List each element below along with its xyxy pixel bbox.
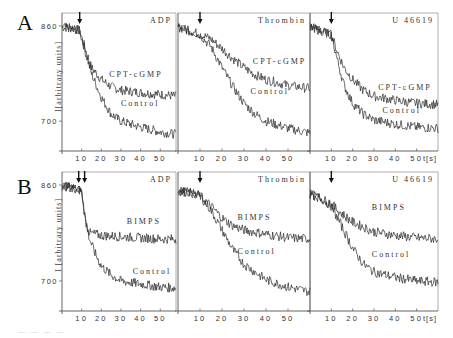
x-tick-label: 30 <box>115 154 128 163</box>
x-tick-label: 40 <box>389 154 402 163</box>
row-label-a: A <box>17 10 33 36</box>
series-label: Control <box>383 106 421 115</box>
x-tick-label: 20 <box>216 314 229 323</box>
panel-title: Thrombin <box>258 16 306 25</box>
x-tick-label: 40 <box>260 314 273 323</box>
trace-bimps <box>310 192 438 243</box>
y-tick-label: 860 <box>41 22 58 31</box>
x-tick-label: 50 <box>154 314 167 323</box>
series-label: BIMPS <box>372 203 406 212</box>
arrow-down-icon <box>82 178 87 183</box>
x-tick-label: 10 <box>194 154 207 163</box>
trace-control <box>178 25 310 136</box>
row-label-b: B <box>17 174 32 200</box>
x-tick-label: 40 <box>260 154 273 163</box>
series-label: Control <box>133 267 171 276</box>
x-unit-label: t[s] <box>423 154 437 163</box>
x-tick-label: 10 <box>75 314 88 323</box>
arrow-down-icon <box>77 19 82 24</box>
x-tick-label: 40 <box>134 314 147 323</box>
x-tick-label: 50 <box>410 314 423 323</box>
series-label: Control <box>121 99 159 108</box>
x-tick-label: 10 <box>75 154 88 163</box>
series-label: CPT-cGMP <box>109 70 163 79</box>
x-tick-label: 20 <box>216 154 229 163</box>
panel-title: Thrombin <box>258 175 306 184</box>
series-label: Control <box>372 250 410 259</box>
y-tick-label: 700 <box>41 277 58 286</box>
x-tick-label: 30 <box>368 154 381 163</box>
series-label: Control <box>237 247 275 256</box>
panel-title: ADP <box>150 175 172 184</box>
x-tick-label: 20 <box>95 154 108 163</box>
x-tick-label: 30 <box>368 314 381 323</box>
trace-cpt-cgmp <box>62 24 176 99</box>
x-tick-label: 10 <box>325 154 338 163</box>
panel-b-thrombin: 1020304050ThrombinBIMPSControl <box>175 171 310 323</box>
y-axis-label-a: I[arbitrary units] <box>54 41 63 112</box>
x-tick-label: 50 <box>154 154 167 163</box>
x-tick-label: 30 <box>238 154 251 163</box>
figure-caption: — — — — <box>18 328 65 336</box>
arrow-down-icon <box>329 178 334 183</box>
series-label: BIMPS <box>237 213 271 222</box>
y-tick-label: 700 <box>41 117 58 126</box>
panel-title: U 46619 <box>392 175 434 184</box>
trace-control <box>178 187 310 296</box>
series-label: CPT-cGMP <box>378 83 432 92</box>
x-tick-label: 20 <box>346 154 359 163</box>
x-tick-label: 10 <box>194 314 207 323</box>
panel-title: ADP <box>150 16 172 25</box>
x-tick-label: 20 <box>95 314 108 323</box>
series-label: Control <box>251 87 289 96</box>
y-axis-label-b: I [arbitrary units] <box>54 198 63 272</box>
arrow-down-icon <box>198 19 203 24</box>
x-tick-label: 50 <box>282 314 295 323</box>
trace-control <box>310 23 438 133</box>
panel-a-thrombin: 1020304050ThrombinCPT-cGMPControl <box>175 12 310 163</box>
x-tick-label: 10 <box>325 314 338 323</box>
x-tick-label: 30 <box>238 314 251 323</box>
trace-control <box>62 23 176 139</box>
panel-a-u-46619: 1020304050t[s]U 46619CPT-cGMPControl <box>307 12 438 163</box>
x-tick-label: 50 <box>282 154 295 163</box>
arrow-down-icon <box>329 19 334 24</box>
x-unit-label: t[s] <box>423 314 437 323</box>
trace-cpt-cgmp <box>310 24 438 108</box>
figure-canvas: 1020304050860700ADPCPT-cGMPControl102030… <box>0 0 453 338</box>
series-label: BIMPS <box>127 217 161 226</box>
series-label: CPT-cGMP <box>253 57 306 66</box>
panel-title: U 46619 <box>392 16 434 25</box>
arrow-down-icon <box>76 178 81 183</box>
x-tick-label: 50 <box>410 154 423 163</box>
y-tick-label: 860 <box>41 181 58 190</box>
panel-b-u-46619: 1020304050t[s]U 46619BIMPSControl <box>307 171 438 323</box>
x-tick-label: 40 <box>134 154 147 163</box>
x-tick-label: 40 <box>389 314 402 323</box>
x-tick-label: 20 <box>346 314 359 323</box>
arrow-down-icon <box>198 178 203 183</box>
x-tick-label: 30 <box>115 314 128 323</box>
